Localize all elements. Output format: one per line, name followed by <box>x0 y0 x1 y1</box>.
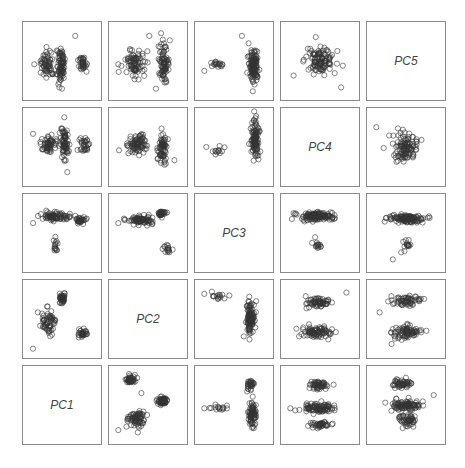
scatter-points <box>281 280 359 358</box>
scatter-points <box>23 194 101 272</box>
variable-label: PC2 <box>109 280 187 358</box>
scatter-points <box>281 366 359 444</box>
scatter-points <box>109 194 187 272</box>
scatter-points <box>367 280 445 358</box>
scatter-points <box>109 366 187 444</box>
scatter-panel-r3-c4 <box>366 279 446 359</box>
scatter-panel-r4-c1 <box>108 365 188 445</box>
scatter-panel-r4-c2 <box>194 365 274 445</box>
diagonal-panel-pc5: PC5 <box>366 21 446 101</box>
scatter-panel-r3-c3 <box>280 279 360 359</box>
scatter-points <box>109 108 187 186</box>
scatter-panel-r1-c4 <box>366 107 446 187</box>
variable-label: PC4 <box>281 108 359 186</box>
scatter-panel-r2-c4 <box>366 193 446 273</box>
diagonal-panel-pc2: PC2 <box>108 279 188 359</box>
variable-label: PC3 <box>195 194 273 272</box>
variable-label: PC5 <box>367 22 445 100</box>
scatter-panel-r1-c0 <box>22 107 102 187</box>
scatter-panel-r4-c4 <box>366 365 446 445</box>
scatter-panel-r1-c1 <box>108 107 188 187</box>
scatter-points <box>109 22 187 100</box>
scatter-points <box>195 366 273 444</box>
scatter-points <box>281 22 359 100</box>
scatter-points <box>195 22 273 100</box>
scatter-panel-r3-c2 <box>194 279 274 359</box>
scatter-points <box>23 108 101 186</box>
scatter-panel-r2-c3 <box>280 193 360 273</box>
scatter-points <box>367 366 445 444</box>
scatter-points <box>367 108 445 186</box>
variable-label: PC1 <box>23 366 101 444</box>
scatter-points <box>195 108 273 186</box>
scatter-points <box>23 280 101 358</box>
scatter-points <box>281 194 359 272</box>
scatter-panel-r0-c0 <box>22 21 102 101</box>
scatter-panel-r0-c3 <box>280 21 360 101</box>
scatter-panel-r4-c3 <box>280 365 360 445</box>
scatter-panel-r0-c2 <box>194 21 274 101</box>
scatter-points <box>195 280 273 358</box>
scatter-panel-r2-c1 <box>108 193 188 273</box>
diagonal-panel-pc4: PC4 <box>280 107 360 187</box>
scatter-panel-r0-c1 <box>108 21 188 101</box>
scatter-panel-r1-c2 <box>194 107 274 187</box>
diagonal-panel-pc1: PC1 <box>22 365 102 445</box>
scatter-points <box>367 194 445 272</box>
scatter-points <box>23 22 101 100</box>
scatter-panel-r2-c0 <box>22 193 102 273</box>
scatter-panel-r3-c0 <box>22 279 102 359</box>
diagonal-panel-pc3: PC3 <box>194 193 274 273</box>
